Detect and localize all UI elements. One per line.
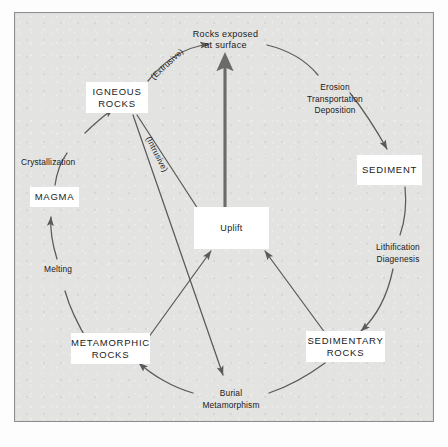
label-lithification-text: Lithification Diagenesis [376,242,420,263]
edge-lithification-to-sedimentary [361,269,393,331]
node-sedimentary-rocks-label: SEDIMENTARY ROCKS [308,335,384,357]
label-burial-text: Burial Metamorphism [202,388,259,409]
node-sedimentary-rocks[interactable]: SEDIMENTARY ROCKS [306,331,385,362]
node-rocks-exposed[interactable]: Rocks exposed at surface [177,27,274,53]
edge-burial-to-metamorphic [139,363,193,393]
caption-strip [14,428,434,442]
label-erosion-text: Erosion Transportation Deposition [307,82,363,115]
rock-cycle-figure: Rocks exposed at surface IGNEOUS ROCKS S… [0,0,448,447]
node-igneous-rocks-label: IGNEOUS ROCKS [92,86,141,108]
node-sediment-label: SEDIMENT [362,164,417,175]
label-melting-text: Melting [44,264,72,274]
label-crystallization-text: Crystallization [21,157,75,167]
node-sediment[interactable]: SEDIMENT [357,155,422,185]
edge-sedimentary-to-uplift [265,251,331,341]
node-rocks-exposed-label: Rocks exposed at surface [193,29,258,50]
label-lithification-diagenesis: Lithification Diagenesis [362,231,434,265]
diagram-frame: Rocks exposed at surface IGNEOUS ROCKS S… [14,12,434,422]
label-erosion-transportation-deposition: Erosion Transportation Deposition [299,71,371,116]
node-metamorphic-rocks-label: METAMORPHIC ROCKS [71,337,150,359]
node-uplift[interactable]: Uplift [194,207,269,249]
label-melting: Melting [44,253,90,276]
node-uplift-label: Uplift [220,223,242,234]
edge-metamorphic-to-uplift [143,251,211,345]
node-metamorphic-rocks[interactable]: METAMORPHIC ROCKS [71,333,150,364]
edge-sedimentary-to-burial [269,363,325,393]
edge-sediment-to-lithification [400,187,406,235]
node-igneous-rocks[interactable]: IGNEOUS ROCKS [86,82,148,113]
node-magma[interactable]: MAGMA [30,187,79,207]
label-burial-metamorphism: Burial Metamorphism [195,377,267,411]
node-magma-label: MAGMA [35,191,75,202]
label-crystallization: Crystallization [21,146,93,169]
